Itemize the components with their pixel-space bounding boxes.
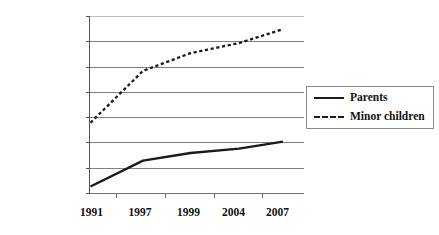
x-axis-tick-label: 1991: [80, 206, 103, 218]
x-axis-tick-label: 1997: [129, 206, 152, 218]
x-axis-tick-label: 2007: [266, 206, 289, 218]
legend-item-minor-children: Minor children: [314, 109, 425, 125]
x-axis-tick-label: 2004: [222, 206, 245, 218]
line-chart: 1,800,0001,600,0001,400,0001,200,0001,00…: [0, 0, 439, 235]
legend-swatch-solid-icon: [314, 93, 344, 103]
chart-legend: Parents Minor children: [306, 86, 434, 129]
legend-swatch-dashed-icon: [314, 112, 344, 122]
legend-label-minor-children: Minor children: [350, 111, 425, 123]
legend-label-parents: Parents: [350, 92, 387, 104]
legend-item-parents: Parents: [314, 90, 387, 106]
x-axis-tick-label: 1999: [177, 206, 200, 218]
